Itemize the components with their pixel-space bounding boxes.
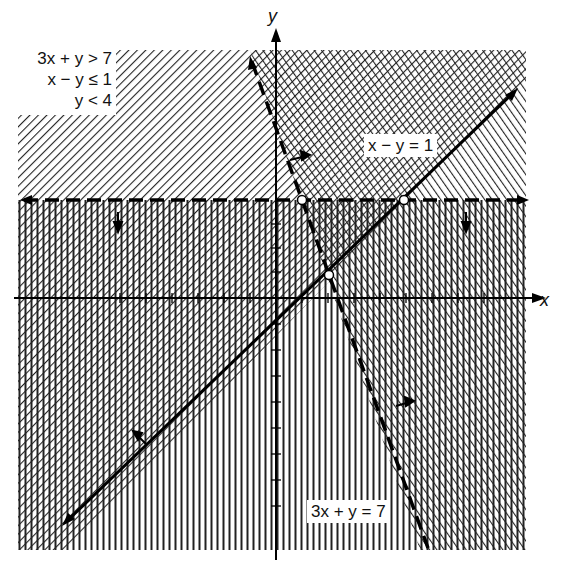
y-axis-label: y xyxy=(268,6,277,27)
inequality-1: 3x + y > 7 xyxy=(4,48,112,69)
line-label-x-minus-y: x − y = 1 xyxy=(364,134,437,157)
inequality-2: x − y ≤ 1 xyxy=(4,69,112,90)
line-label-3x-plus-y: 3x + y = 7 xyxy=(307,500,390,523)
inequality-system-label: 3x + y > 7 x − y ≤ 1 y < 4 xyxy=(4,46,116,115)
vertex-1-4 xyxy=(298,196,307,205)
vertex-2-1 xyxy=(325,271,334,280)
vertex-5-4 xyxy=(400,196,409,205)
x-axis-label: x xyxy=(540,290,549,311)
y-axis-arrow-icon xyxy=(271,28,281,42)
inequality-3: y < 4 xyxy=(4,90,112,111)
